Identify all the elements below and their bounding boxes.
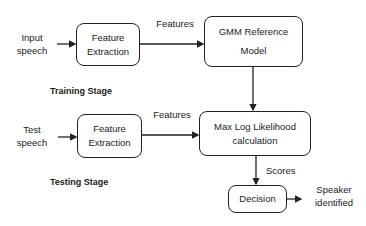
training-stage-label: Training Stage (50, 85, 120, 98)
likelihood-box-line2: calculation (233, 134, 278, 148)
training-feature-extraction-box: Feature Extraction (76, 23, 140, 66)
input-label-line1: Input (12, 31, 52, 44)
feature-box-line2: Extraction (88, 136, 130, 150)
decision-box: Decision (228, 185, 287, 213)
gmm-box-line1: GMM Reference (219, 25, 289, 39)
scores-edge-label: Scores (266, 164, 306, 177)
test-label-line1: Test (12, 123, 52, 136)
output-label-line2: identified (308, 196, 360, 209)
decision-box-label: Decision (239, 192, 275, 206)
testing-stage-label: Testing Stage (50, 176, 120, 189)
input-speech-label: Input speech (12, 31, 52, 57)
feature-box-line1: Feature (92, 31, 125, 45)
feature-box-line1: Feature (93, 122, 126, 136)
testing-feature-extraction-box: Feature Extraction (77, 114, 142, 158)
likelihood-box-line1: Max Log Likelihood (214, 120, 296, 134)
testing-features-edge-label: Features (147, 108, 197, 121)
speaker-identified-label: Speaker identified (308, 183, 360, 209)
test-speech-label: Test speech (12, 123, 52, 149)
training-features-edge-label: Features (150, 17, 200, 30)
gmm-reference-model-box: GMM Reference Model (204, 16, 303, 67)
input-label-line2: speech (12, 44, 52, 57)
output-label-line1: Speaker (308, 183, 360, 196)
feature-box-line2: Extraction (87, 45, 129, 59)
test-label-line2: speech (12, 136, 52, 149)
gmm-box-line2: Model (241, 44, 267, 58)
max-log-likelihood-box: Max Log Likelihood calculation (199, 111, 311, 156)
